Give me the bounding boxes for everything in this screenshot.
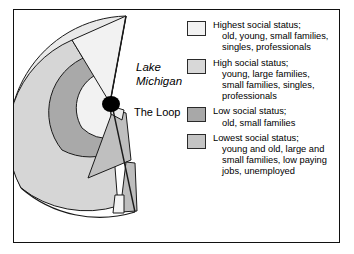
legend-label-low: Low social status; old, small families (213, 106, 295, 128)
legend-item-lowest-social-status: Lowest social status; young and old, lar… (187, 133, 337, 178)
zone-lakefront-strip-white (113, 195, 124, 213)
legend: Highest social status; old, young, small… (187, 20, 337, 182)
concentric-zone-map: Lake Michigan The Loop (14, 10, 189, 242)
figure-root: Lake Michigan The Loop Highest social st… (0, 0, 354, 254)
legend-swatch-low-icon (187, 107, 206, 122)
legend-label-lowest: Lowest social status; young and old, lar… (213, 133, 327, 178)
legend-item-high-social-status: High social status; young, large familie… (187, 58, 337, 103)
the-loop-label: The Loop (134, 106, 180, 118)
legend-label-highest: Highest social status; old, young, small… (213, 20, 328, 54)
legend-item-highest-social-status: Highest social status; old, young, small… (187, 20, 337, 54)
legend-swatch-highest-icon (187, 21, 206, 36)
legend-swatch-lowest-icon (187, 134, 206, 149)
loop-dot-icon (102, 96, 120, 112)
legend-item-low-social-status: Low social status; old, small families (187, 106, 337, 128)
legend-label-high: High social status; young, large familie… (213, 58, 314, 103)
lake-michigan-label: Lake Michigan (136, 61, 182, 88)
legend-swatch-high-icon (187, 59, 206, 74)
